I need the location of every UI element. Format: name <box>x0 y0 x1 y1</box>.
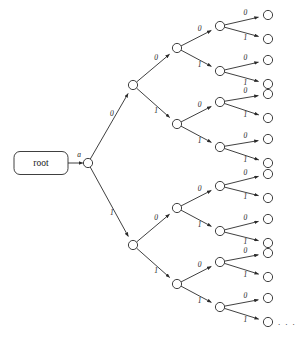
tree-node-level5 <box>263 169 272 178</box>
root-node-layer: root <box>14 152 68 175</box>
tree-edge <box>181 210 211 226</box>
edge-label-1: 1 <box>154 266 158 275</box>
tree-edge <box>181 266 211 281</box>
binary-tree-figure: a010101010101010101010101010101 root . .… <box>0 0 303 339</box>
edge-label-0: 0 <box>244 246 248 255</box>
tree-edge <box>224 232 258 241</box>
tree-edge <box>224 17 258 25</box>
edge-labels-layer: a010101010101010101010101010101 <box>77 8 247 323</box>
edge-label-1: 1 <box>244 270 248 279</box>
tree-diagram-canvas: a010101010101010101010101010101 root . .… <box>0 0 303 339</box>
tree-edge <box>137 54 170 82</box>
tree-node-level5 <box>263 113 272 122</box>
tree-node-level5 <box>263 34 272 43</box>
entry-edge-label: a <box>77 150 81 159</box>
tree-node-level3 <box>172 43 181 52</box>
edge-label-0: 0 <box>244 53 248 62</box>
tree-node-level5 <box>263 272 272 281</box>
tree-node-level2 <box>128 240 137 249</box>
tree-edge <box>224 72 258 81</box>
edge-label-0: 0 <box>110 109 114 118</box>
edge-label-0: 0 <box>244 168 248 177</box>
edge-label-1: 1 <box>244 192 248 201</box>
tree-edge <box>181 50 211 66</box>
edge-label-0: 0 <box>154 53 158 62</box>
tree-node-level5 <box>263 89 272 98</box>
tree-node-level5 <box>263 317 272 326</box>
tree-edge <box>137 214 170 242</box>
edge-label-0: 0 <box>244 86 248 95</box>
tree-node-level4 <box>215 21 224 30</box>
continuation-ellipsis: . . . <box>278 317 296 327</box>
root-node-label: root <box>33 158 49 168</box>
edge-label-0: 0 <box>244 8 248 17</box>
tree-edge <box>224 308 258 319</box>
tree-edge <box>90 167 128 236</box>
tree-node-level5 <box>263 214 272 223</box>
tree-edge <box>181 30 211 45</box>
tree-node-level4 <box>215 257 224 266</box>
tree-node-level5 <box>263 79 272 88</box>
tree-node-level4 <box>215 181 224 190</box>
tree-node-level4 <box>215 97 224 106</box>
tree-edge <box>224 27 258 36</box>
edge-label-0: 0 <box>198 24 202 33</box>
tree-node-level2 <box>128 80 137 89</box>
tree-edge <box>225 141 259 147</box>
tree-edge <box>225 255 259 261</box>
tree-node-level5 <box>263 238 272 247</box>
tree-node-level3 <box>172 203 181 212</box>
tree-edge <box>224 187 258 196</box>
tree-edge <box>136 88 169 117</box>
edge-label-0: 0 <box>244 291 248 300</box>
edge-label-1: 1 <box>244 155 248 164</box>
tree-edge <box>224 221 258 230</box>
tree-node-level3 <box>172 279 181 288</box>
tree-edge <box>224 263 258 274</box>
edge-label-0: 0 <box>198 100 202 109</box>
tree-edge <box>224 62 258 70</box>
tree-node-level5 <box>263 10 272 19</box>
tree-node-level5 <box>263 158 272 167</box>
edge-label-1: 1 <box>198 296 202 305</box>
tree-node-level3 <box>172 119 181 128</box>
edge-label-0: 0 <box>244 131 248 140</box>
edge-label-1: 1 <box>110 208 114 217</box>
edge-label-0: 0 <box>198 184 202 193</box>
tree-node-level4 <box>215 302 224 311</box>
tree-node-level5 <box>263 248 272 257</box>
edge-label-0: 0 <box>154 213 158 222</box>
tree-node-level5 <box>263 134 272 143</box>
edge-label-0: 0 <box>198 260 202 269</box>
tree-edge <box>225 96 259 102</box>
tree-edge <box>224 148 258 159</box>
tree-edge <box>136 248 169 277</box>
tree-edge <box>224 176 258 185</box>
tree-edge <box>181 106 211 121</box>
tree-node-level5 <box>263 55 272 64</box>
tree-node-level4 <box>215 142 224 151</box>
edge-label-1: 1 <box>244 315 248 324</box>
edge-label-1: 1 <box>154 106 158 115</box>
tree-node-level4 <box>215 66 224 75</box>
tree-edge <box>181 190 211 205</box>
edge-label-1: 1 <box>198 60 202 69</box>
edge-label-0: 0 <box>244 213 248 222</box>
edge-label-1: 1 <box>244 33 248 42</box>
tree-edge <box>181 126 211 142</box>
edge-label-1: 1 <box>198 220 202 229</box>
tree-node-level5 <box>263 293 272 302</box>
tree-edge <box>90 93 128 159</box>
edge-label-1: 1 <box>244 110 248 119</box>
tree-edge <box>225 300 259 306</box>
tree-node-level1 <box>83 158 92 167</box>
edge-label-1: 1 <box>198 136 202 145</box>
tree-edge <box>181 286 211 302</box>
tree-node-level4 <box>215 226 224 235</box>
tree-node-level5 <box>263 193 272 202</box>
tree-edge <box>224 103 258 114</box>
edges-layer <box>68 17 259 319</box>
